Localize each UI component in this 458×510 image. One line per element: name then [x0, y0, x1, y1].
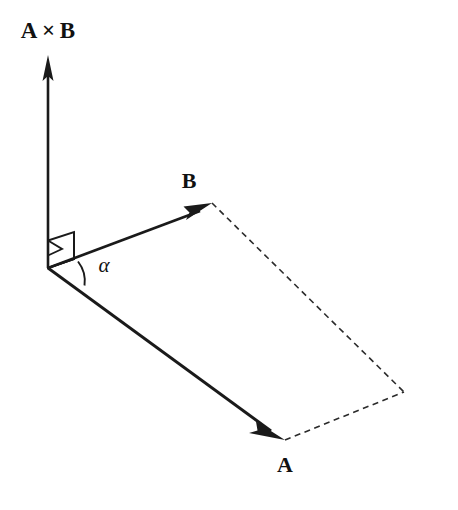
vector-diagram-figure: A × B B A α: [0, 0, 458, 510]
perpendicular-marker-wedge: [48, 241, 62, 256]
vector-cross-product: [43, 55, 54, 268]
label-angle-alpha: α: [98, 253, 110, 277]
vector-a-arrowhead: [249, 422, 285, 441]
vector-b: [48, 203, 212, 268]
angle-alpha-arc: [78, 262, 85, 286]
perpendicular-angle-marker: [48, 232, 74, 268]
vector-diagram-canvas: A × B B A α: [0, 0, 458, 510]
dashed-edge-b-to-far: [212, 203, 404, 392]
dashed-edge-a-to-far: [285, 392, 404, 440]
label-vector-a: A: [277, 452, 293, 477]
label-vector-b: B: [182, 168, 197, 193]
label-cross-product: A × B: [21, 18, 75, 43]
vector-b-arrowhead: [184, 203, 213, 220]
parallelogram-dashed-edges: [212, 203, 404, 440]
vector-a-shaft: [48, 268, 271, 431]
vector-a: [48, 268, 285, 440]
